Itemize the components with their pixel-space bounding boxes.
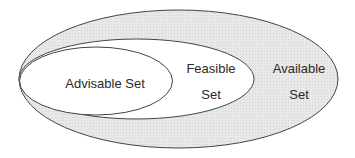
available-set-label-line1: Available <box>273 61 326 76</box>
nested-sets-diagram: Advisable Set Feasible Set Available Set <box>0 0 355 158</box>
advisable-set-label: Advisable Set <box>65 76 145 91</box>
feasible-set-label-line2: Set <box>201 87 221 102</box>
available-set-label-line2: Set <box>289 87 309 102</box>
feasible-set-label-line1: Feasible <box>186 61 235 76</box>
